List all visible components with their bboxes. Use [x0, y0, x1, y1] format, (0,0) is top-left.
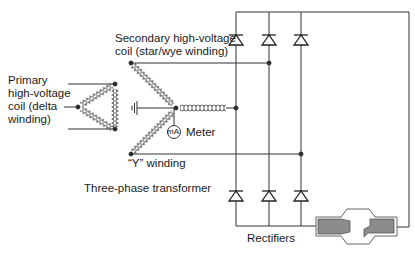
x-ray-tube-icon	[316, 209, 397, 244]
x-ray-circuit-diagram: Primary high-voltage coil (delta winding…	[0, 0, 415, 253]
delta-winding-coil	[64, 82, 119, 131]
primary-label-line1: Primary	[8, 74, 48, 87]
primary-label-line2: high-voltage	[8, 87, 71, 100]
secondary-label-line2: coil (star/wye winding)	[115, 45, 228, 58]
primary-label-line4: winding)	[8, 113, 51, 126]
primary-label-line3: coil (delta	[8, 100, 57, 113]
rectifiers-label: Rectifiers	[247, 232, 295, 245]
secondary-label-line1: Secondary high-voltage	[115, 32, 236, 45]
meter-symbol: mA	[167, 127, 179, 137]
meter-label: Meter	[186, 126, 215, 139]
y-winding-label: “Y” winding	[128, 157, 186, 170]
transformer-label: Three-phase transformer	[84, 182, 211, 195]
